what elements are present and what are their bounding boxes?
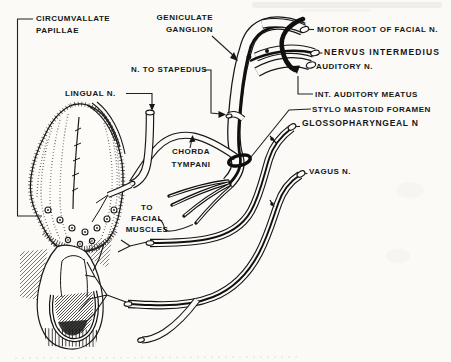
label-to-facial-muscles: TO FACIAL MUSCLES (119, 202, 175, 235)
label-stylo-mastoid-foramen: STYLO MASTOID FORAMEN (312, 104, 431, 115)
label-nervus-intermedius: NERVUS INTERMEDIUS (324, 47, 440, 58)
tongue-outline (30, 104, 123, 252)
arrow-stapedius (219, 111, 227, 118)
anatomy-diagram-tongue-innervation: CIRCUMVALLATE PAPILLAE GENICULATE GANGLI… (0, 0, 451, 362)
leader-stapedius (204, 70, 221, 114)
label-motor-root-of-facial-n: MOTOR ROOT OF FACIAL N. (317, 24, 438, 35)
branches-to-facial-muscles (169, 181, 232, 223)
label-circumvallate-papillae: CIRCUMVALLATE PAPILLAE (36, 13, 110, 36)
label-glossopharyngeal-n: GLOSSOPHARYNGEAL N (302, 118, 419, 129)
cut-end-vagus (296, 170, 306, 179)
label-vagus-n: VAGUS N. (309, 166, 351, 177)
label-auditory-n: AUDITORY N. (316, 61, 373, 72)
larynx-drawing (20, 238, 147, 349)
leader-int-auditory-meatus (298, 76, 313, 94)
leader-geniculate (212, 36, 235, 57)
cut-end-lingual (146, 110, 154, 115)
leader-lingual (126, 94, 152, 106)
geniculate-ganglion-node (247, 55, 252, 60)
label-geniculate-ganglion: GENICULATE GANGLION (155, 12, 213, 35)
label-n-to-stapedius: N. TO STAPEDIUS (131, 64, 207, 75)
label-chorda-tympani: CHORDA TYMPANI (167, 146, 215, 171)
cut-end-glossopharyngeal (287, 122, 297, 131)
tongue-drawing (30, 102, 125, 252)
label-int-auditory-meatus: INT. AUDITORY MEATUS (315, 89, 418, 100)
vagus-nerve (124, 170, 306, 343)
label-lingual-n: LINGUAL N. (65, 88, 116, 99)
